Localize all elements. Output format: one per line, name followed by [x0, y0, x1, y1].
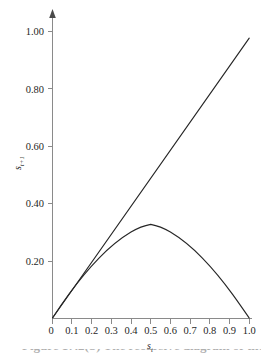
- axes-group: [49, 9, 252, 319]
- figure-container: 1.00 0.80 0.60 0.40 0.20 0 0.1 0.2 0.3: [0, 0, 261, 358]
- y-tick-label-0.20: 0.20: [26, 256, 44, 267]
- x-tick-label-0.5: 0.5: [144, 325, 157, 336]
- y-tick-label-1.00: 1.00: [26, 26, 44, 37]
- x-tick-label-0.7: 0.7: [184, 325, 197, 336]
- x-tick-label-1.0: 1.0: [243, 325, 256, 336]
- x-tick-label-0.4: 0.4: [124, 325, 138, 336]
- figure-caption-strip: Figure 17.2(b) The recursive diagram of …: [0, 349, 261, 358]
- figure-caption: Figure 17.2(b) The recursive diagram of …: [22, 349, 261, 354]
- x-tick-label-0.9: 0.9: [223, 325, 236, 336]
- y-tick-marks: [48, 32, 53, 262]
- logistic-parabola-curve: [53, 224, 250, 318]
- x-tick-label-0.2: 0.2: [85, 325, 98, 336]
- x-tick-label-0.3: 0.3: [105, 325, 118, 336]
- y-tick-label-0.80: 0.80: [26, 84, 44, 95]
- y-tick-label-0.60: 0.60: [26, 141, 44, 152]
- x-tick-label-0.1: 0.1: [65, 325, 78, 336]
- x-tick-marks: [52, 319, 249, 324]
- recursive-map-plot: 1.00 0.80 0.60 0.40 0.20 0 0.1 0.2 0.3: [0, 0, 261, 358]
- y-tick-labels: 1.00 0.80 0.60 0.40 0.20: [26, 26, 44, 267]
- x-tick-label-0.6: 0.6: [164, 325, 177, 336]
- svg-text:st+1: st+1: [12, 156, 26, 170]
- y-axis-title-sub: t+1: [18, 156, 26, 166]
- x-tick-labels: 0 0.1 0.2 0.3 0.4 0.5 0.6 0.7 0.8 0.9 1.…: [48, 325, 255, 336]
- diagonal-identity-line: [53, 38, 250, 318]
- y-axis-arrow-icon: [49, 9, 56, 18]
- data-curves: [53, 38, 250, 318]
- x-tick-label-0: 0: [48, 325, 53, 336]
- y-tick-label-0.40: 0.40: [26, 198, 44, 209]
- x-tick-label-0.8: 0.8: [203, 325, 216, 336]
- y-axis-title: st+1: [12, 156, 26, 170]
